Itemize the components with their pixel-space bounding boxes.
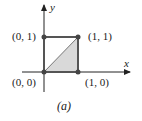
point-label-1-1: (1, 1) [88,31,112,42]
vertex-1-0 [76,70,81,75]
point-label-1-0: (1, 0) [85,77,109,88]
figure-caption: (a) [57,100,71,112]
x-axis-label: x [124,58,129,69]
point-label-0-0: (0, 0) [12,77,36,88]
unit-square-diagram: y x (0, 1) (1, 1) (0, 0) (1, 0) (a) [0,0,142,121]
diagram-canvas [0,0,142,121]
point-label-0-1: (0, 1) [12,31,36,42]
vertex-0-1 [42,35,47,40]
vertex-1-1 [76,35,81,40]
y-axis-label: y [50,2,55,13]
vertex-0-0 [42,70,47,75]
